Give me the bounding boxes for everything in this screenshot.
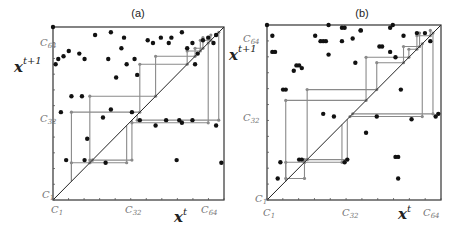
data-point [428, 39, 432, 43]
x-tick-c32: C32 [342, 207, 359, 220]
cobweb-node [303, 177, 306, 180]
cobweb-node [284, 99, 287, 102]
data-point [167, 41, 171, 45]
cobweb-node [138, 63, 141, 66]
data-point [159, 35, 163, 39]
data-point [391, 23, 395, 27]
data-point [399, 87, 403, 91]
cobweb-node [429, 29, 432, 32]
data-point [201, 38, 205, 42]
data-point [214, 33, 218, 37]
data-point [93, 33, 97, 37]
x-tick-c1: C1 [263, 207, 275, 220]
diagonal-line [267, 25, 441, 200]
cobweb-path [137, 32, 219, 120]
data-point [345, 157, 349, 161]
cobweb-node [154, 55, 157, 58]
data-point [219, 161, 223, 165]
x-tick-c32: C32 [125, 204, 142, 217]
x-axis-label: xt [397, 203, 412, 223]
cobweb-node [284, 161, 287, 164]
data-point [326, 52, 330, 56]
cobweb-node [193, 47, 196, 50]
data-point [273, 50, 277, 54]
data-point [122, 35, 126, 39]
data-point [103, 161, 107, 165]
y-tick-c1: C1 [42, 189, 54, 202]
data-point [332, 114, 336, 118]
data-point [195, 51, 199, 55]
cobweb-node [70, 161, 73, 164]
data-point [130, 110, 134, 114]
data-point [124, 62, 128, 66]
data-point [358, 28, 362, 32]
data-point [67, 49, 71, 53]
data-point [185, 46, 189, 50]
cobweb-node [407, 48, 410, 51]
data-point [350, 36, 354, 40]
data-point [61, 54, 65, 58]
panel-title: (b) [355, 7, 368, 19]
data-points [51, 25, 224, 165]
data-point [340, 39, 344, 43]
data-point [423, 31, 427, 35]
cobweb-node [402, 45, 405, 48]
data-point [326, 23, 330, 27]
data-point [278, 160, 282, 164]
data-point [69, 94, 73, 98]
panel-b: (b) C64 C32 C1 C1 C32 C64 xt xt+1 [228, 7, 441, 223]
data-point [396, 176, 400, 180]
data-point [324, 39, 328, 43]
data-point [388, 50, 392, 54]
data-point [276, 176, 280, 180]
data-point [53, 62, 57, 66]
data-point [109, 107, 113, 111]
data-point [284, 87, 288, 91]
data-point [77, 51, 81, 55]
data-point [300, 66, 304, 70]
cobweb-node [306, 88, 309, 91]
cobweb-node [70, 111, 73, 114]
data-point [270, 34, 274, 38]
panel-title: (a) [131, 7, 144, 19]
data-point [106, 57, 110, 61]
data-point [409, 117, 413, 121]
data-point [135, 73, 139, 77]
data-point [82, 57, 86, 61]
data-point [190, 41, 194, 45]
cobweb-node [207, 121, 210, 124]
data-point [85, 137, 89, 141]
data-point [180, 30, 184, 34]
data-point [82, 158, 86, 162]
data-point [193, 62, 197, 66]
data-point [119, 46, 123, 50]
cobweb-node [125, 161, 128, 164]
data-point [59, 110, 63, 114]
data-point [401, 34, 405, 38]
cobweb-node [364, 56, 367, 59]
panel-a: (a) C64 C32 C1 C1 C32 C64 xt xt+1 [13, 7, 224, 226]
y-axis-label: xt+1 [228, 43, 257, 64]
data-point [300, 157, 304, 161]
data-point [321, 112, 325, 116]
x-tick-c1: C1 [51, 204, 63, 217]
data-point [380, 44, 384, 48]
data-point [265, 23, 269, 27]
y-tick-c32: C32 [243, 112, 260, 125]
data-point [436, 112, 440, 116]
x-tick-c64: C64 [423, 207, 440, 220]
data-point [153, 123, 157, 127]
data-point [101, 115, 105, 119]
cobweb-node [130, 158, 133, 161]
cobweb-node [217, 119, 220, 122]
data-point [396, 155, 400, 159]
data-point [393, 55, 397, 59]
data-point [364, 130, 368, 134]
data-point [132, 57, 136, 61]
cobweb-node [375, 61, 378, 64]
data-point [415, 31, 419, 35]
cobweb-path [307, 33, 419, 160]
cobweb-path [90, 38, 203, 163]
y-tick-c64: C64 [40, 37, 57, 50]
y-axis-label: xt+1 [13, 55, 42, 76]
